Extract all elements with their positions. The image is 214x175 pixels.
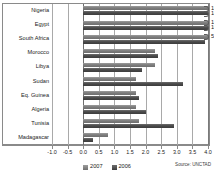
bar-2006-libya [83,68,142,72]
bar-2006-egypt [83,26,208,30]
x-tick-label: 2.0 [142,150,150,155]
bar-2006-sudan [83,82,183,86]
x-axis: -1.0-0.50.00.51.01.52.02.53.03.54.0 [2,145,210,159]
category-label: Eq. Guinea [21,93,52,99]
bar-2007-nigeria [83,6,208,10]
bar-value-label: 14.0 [211,11,214,17]
bar-2007-egypt [83,21,208,25]
x-tick-label: 3.0 [173,150,181,155]
x-tick-label: 3.5 [189,150,197,155]
category-label: South Africa [19,36,52,42]
bar-value-label: 5.7 [211,34,214,40]
bar-2006-morocco [83,54,158,58]
x-axis-line [2,145,210,146]
category-label: Libya [36,64,52,70]
legend-item-2007[interactable]: 2007 [83,164,102,170]
category-label: Nigeria [31,8,52,14]
gridline--1 [52,4,53,145]
x-tick-label: 1.0 [111,150,119,155]
category-label: Algeria [32,107,52,113]
x-tick-label: 0.5 [95,150,103,155]
bar-2006-eq-guinea [83,96,139,100]
chart-container: Nigeria12.514.0Egypt11.610.0South Africa… [0,0,214,175]
x-tick-label: 2.5 [157,150,165,155]
bar-2007-tunisia [83,119,139,123]
category-label: Sudan [33,79,52,85]
legend-item-2006[interactable]: 2006 [112,164,131,170]
bar-2007-eq-guinea [83,91,136,95]
bar-2007-algeria [83,105,136,109]
bar-2007-morocco [83,49,155,53]
bar-2006-nigeria [83,11,208,15]
axis-break-marker [204,11,209,17]
legend-label-2006: 2006 [119,164,131,170]
bar-value-label: 10.0 [211,25,214,31]
bar-2006-algeria [83,110,145,114]
x-tick-label: 4.0 [204,150,212,155]
legend-label-2007: 2007 [90,164,102,170]
category-label: Morocco [28,50,52,56]
category-label: Madagascar [18,135,52,141]
x-tick-label: 1.5 [126,150,134,155]
bar-2006-tunisia [83,124,173,128]
gridline--0-5 [68,4,69,145]
x-tick-label: -0.5 [63,150,72,155]
category-label: Tunisia [31,121,52,127]
bar-2007-sudan [83,77,136,81]
x-tick-label: -1.0 [47,150,56,155]
source-note: Source: UNCTAD [175,163,211,168]
category-label: Egypt [35,22,52,28]
bar-2006-madagascar [83,138,92,142]
x-tick-label: 0.0 [79,150,87,155]
bar-2007-south-africa [83,35,208,39]
plot-area: Nigeria12.514.0Egypt11.610.0South Africa… [52,4,208,145]
bar-2006-south-africa [83,40,205,44]
bar-2007-libya [83,63,155,67]
bar-2007-madagascar [83,133,108,137]
legend-swatch-2007 [83,165,88,170]
legend-swatch-2006 [112,165,117,170]
